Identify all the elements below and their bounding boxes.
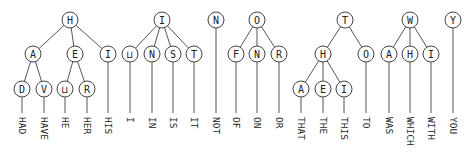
trie-node: I (336, 81, 352, 97)
node-label: ⊔ (127, 49, 133, 60)
trie-edge (39, 25, 64, 48)
trie-node: H (315, 46, 331, 62)
trie-node: E (67, 46, 83, 62)
trie-node: T (186, 46, 202, 62)
leaf-word: I (125, 117, 136, 123)
trie-node: R (79, 81, 95, 97)
trie-node: O (358, 46, 374, 62)
trie-node: H (62, 12, 78, 28)
node-label: A (30, 49, 36, 60)
leaf-word: OF (231, 117, 242, 129)
node-label: A (386, 49, 392, 60)
node-label: ⊔ (62, 84, 68, 95)
node-layer: HAEIDV⊔RI⊔NSTNOFNRTHOAEIWAHIY (14, 12, 461, 97)
node-label: Y (450, 15, 456, 26)
leaf-word: HE (60, 117, 71, 129)
node-label: R (276, 49, 283, 60)
trie-node: I (100, 46, 116, 62)
trie-edge (135, 26, 156, 48)
node-label: S (170, 49, 176, 60)
trie-node: ⊔ (57, 81, 73, 97)
trie-node: E (315, 81, 331, 97)
trie-diagram: HAEIDV⊔RI⊔NSTNOFNRTHOAEIWAHIY HADHAVEHEH… (0, 0, 476, 153)
leaf-word: TO (361, 117, 372, 129)
trie-node: F (228, 46, 244, 62)
node-label: D (19, 84, 25, 95)
leaf-word: THAT (296, 117, 307, 140)
trie-edge (305, 61, 318, 82)
trie-node: I (423, 46, 439, 62)
leaf-word: IS (168, 117, 179, 129)
node-label: I (159, 15, 165, 26)
trie-node: W (402, 12, 418, 28)
node-label: N (213, 15, 219, 26)
leaf-word: THIS (339, 117, 350, 140)
node-label: W (407, 15, 414, 26)
trie-node: N (208, 12, 224, 28)
trie-edge (76, 25, 102, 48)
leaf-word: WHICH (405, 117, 416, 146)
leaf-word: YOU (448, 117, 459, 134)
trie-node: A (25, 46, 41, 62)
trie-edge (67, 62, 73, 82)
leaf-word: HAD (17, 117, 28, 134)
node-label: T (342, 15, 348, 26)
word-layer: HADHAVEHEHERHISIINISITNOTOFONORTHATTHETH… (17, 117, 459, 146)
leaf-word: IT (189, 117, 200, 129)
trie-node: H (402, 46, 418, 62)
leaf-word: ON (252, 117, 263, 129)
node-label: H (67, 15, 73, 26)
trie-edge (240, 27, 253, 47)
trie-node: A (293, 81, 309, 97)
trie-node: T (337, 12, 353, 28)
node-label: O (254, 15, 260, 26)
trie-node: S (165, 46, 181, 62)
node-label: N (149, 49, 155, 60)
trie-node: D (14, 81, 30, 97)
trie-edge (164, 28, 170, 47)
leaf-word: HIS (103, 117, 114, 134)
node-label: H (320, 49, 326, 60)
leaf-word: IN (147, 117, 158, 129)
trie-edge (35, 62, 41, 82)
node-label: I (428, 49, 434, 60)
trie-edge (261, 27, 274, 48)
node-label: F (233, 49, 239, 60)
node-label: E (72, 49, 78, 60)
trie-node: N (249, 46, 265, 62)
trie-edge (24, 62, 30, 82)
trie-edge (327, 27, 340, 48)
leaf-word: WITH (426, 117, 437, 140)
node-label: O (363, 49, 369, 60)
leaf-word: WAS (384, 117, 395, 134)
trie-edge (154, 28, 159, 47)
leaf-word: NOT (211, 117, 222, 134)
leaf-word: HER (82, 117, 93, 134)
node-label: R (84, 84, 91, 95)
node-label: H (407, 49, 413, 60)
node-label: I (105, 49, 111, 60)
leaf-line-layer (22, 28, 453, 113)
node-label: T (191, 49, 197, 60)
leaf-word: THE (318, 117, 329, 134)
leaf-word: OR (274, 117, 285, 129)
trie-node: Y (445, 12, 461, 28)
trie-edge (414, 27, 427, 47)
node-label: N (254, 49, 260, 60)
trie-edge (71, 28, 74, 46)
trie-node: ⊔ (122, 46, 138, 62)
trie-edge (78, 62, 85, 82)
trie-node: A (381, 46, 397, 62)
trie-edge (327, 61, 340, 82)
trie-node: I (154, 12, 170, 28)
trie-edge (349, 27, 362, 47)
node-label: A (298, 84, 304, 95)
trie-node: O (249, 12, 265, 28)
trie-node: N (144, 46, 160, 62)
trie-edge (393, 27, 406, 47)
leaf-word: HAVE (39, 117, 50, 140)
trie-node: R (271, 46, 287, 62)
trie-node: V (36, 81, 52, 97)
node-label: E (320, 84, 326, 95)
node-label: I (341, 84, 347, 95)
